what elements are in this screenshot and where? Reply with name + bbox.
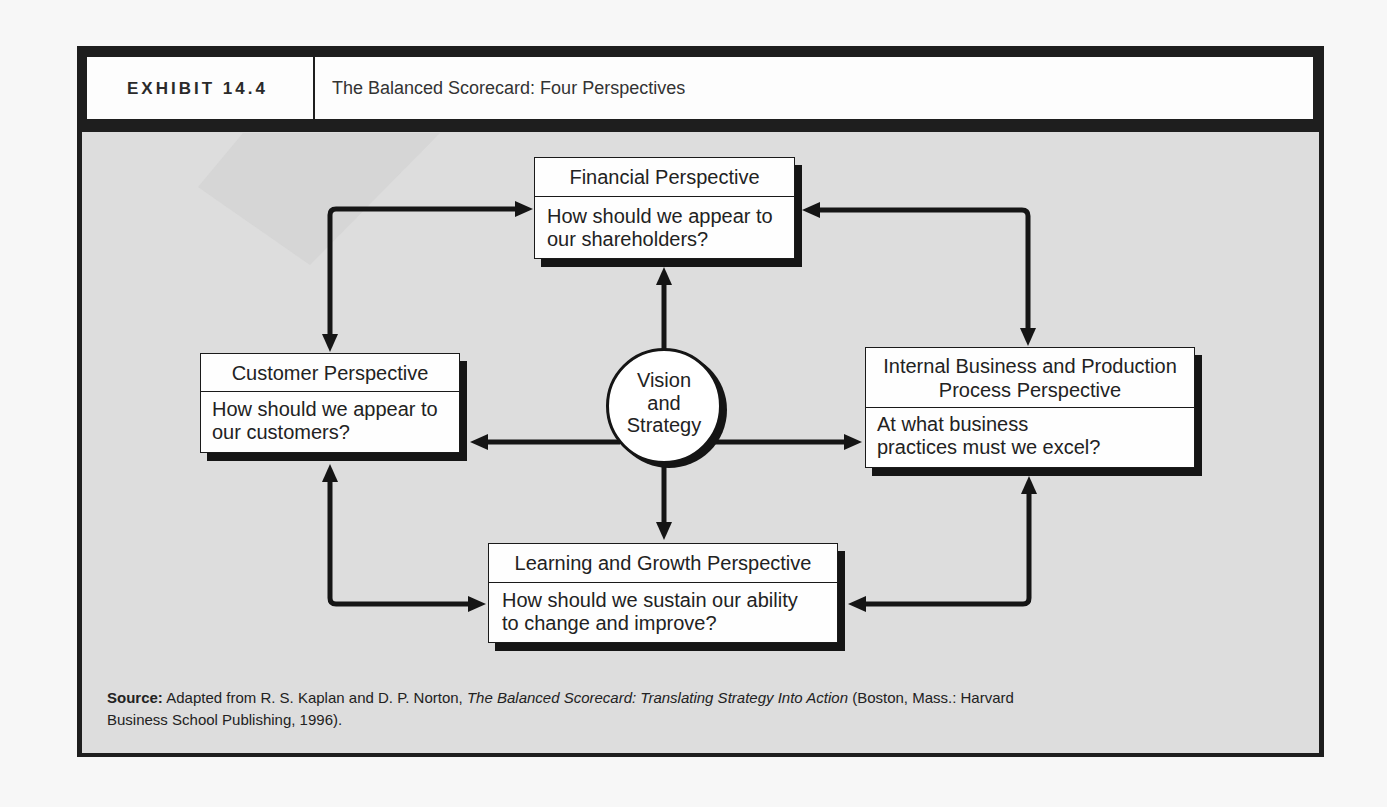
customer-perspective-box: Customer Perspective How should we appea… xyxy=(200,353,460,453)
financial-perspective-question: How should we appear to our shareholders… xyxy=(535,197,794,251)
arrow-financial-internal xyxy=(819,210,1028,330)
arrowhead-left-icon xyxy=(848,596,866,612)
learning-growth-perspective-title: Learning and Growth Perspective xyxy=(489,544,837,583)
arrowhead-left-icon xyxy=(802,202,820,218)
arrowhead-down-icon xyxy=(322,334,338,352)
source-label: Source: xyxy=(107,689,163,706)
scan-shading xyxy=(198,133,440,265)
arrow-customer-learning xyxy=(330,480,470,604)
source-authors: Adapted from R. S. Kaplan and D. P. Nort… xyxy=(163,689,467,706)
internal-process-perspective-question: At what business practices must we excel… xyxy=(866,408,1194,459)
financial-perspective-title: Financial Perspective xyxy=(535,158,794,197)
vision-strategy-hub: Vision and Strategy xyxy=(606,348,722,464)
customer-perspective-question: How should we appear to our customers? xyxy=(201,392,459,444)
internal-process-perspective-box: Internal Business and Production Process… xyxy=(865,347,1195,468)
source-publisher-line1: (Boston, Mass.: Harvard xyxy=(848,689,1014,706)
source-citation: Source: Adapted from R. S. Kaplan and D.… xyxy=(107,687,1287,731)
source-book-title: The Balanced Scorecard: Translating Stra… xyxy=(467,689,848,706)
arrow-customer-financial xyxy=(330,209,517,336)
source-publisher-line2: Business School Publishing, 1996). xyxy=(107,711,342,728)
arrowhead-down-icon xyxy=(656,522,672,540)
arrowhead-up-icon xyxy=(322,464,338,482)
arrowhead-down-icon xyxy=(1020,328,1036,346)
arrow-internal-learning xyxy=(864,492,1029,604)
learning-growth-perspective-question: How should we sustain our ability to cha… xyxy=(489,583,837,635)
arrowhead-right-icon xyxy=(515,201,533,217)
arrowhead-up-icon xyxy=(656,267,672,285)
internal-process-perspective-title: Internal Business and Production Process… xyxy=(866,348,1194,408)
learning-growth-perspective-box: Learning and Growth Perspective How shou… xyxy=(488,543,838,643)
arrowhead-left-icon xyxy=(470,434,488,450)
arrowhead-up-icon xyxy=(1021,476,1037,494)
customer-perspective-title: Customer Perspective xyxy=(201,354,459,392)
arrowhead-right-icon xyxy=(844,434,862,450)
arrowhead-right-icon xyxy=(468,596,486,612)
financial-perspective-box: Financial Perspective How should we appe… xyxy=(534,157,795,259)
